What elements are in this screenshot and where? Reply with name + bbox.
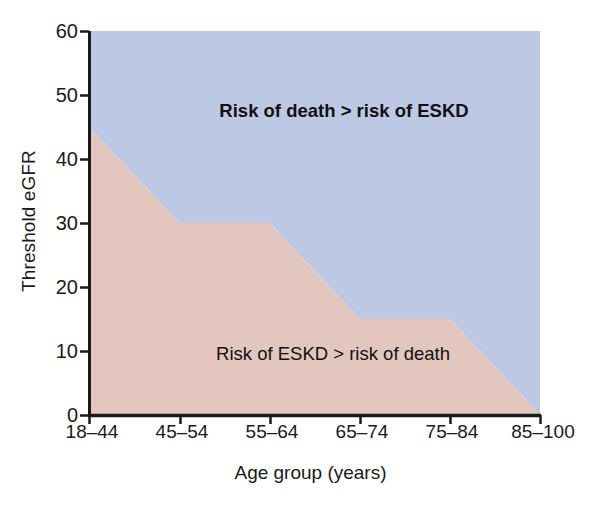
x-tick-label-75-84: 75–84 bbox=[426, 421, 479, 443]
risk-of-eskd-label: Risk of ESKD > risk of death bbox=[216, 343, 450, 365]
x-tick-label-85-100: 85–100 bbox=[511, 421, 574, 443]
x-tick-label-45-54: 45–54 bbox=[156, 421, 209, 443]
chart-figure: Threshold eGFR 60 50 40 30 20 10 0 bbox=[0, 0, 591, 507]
y-axis-ticks bbox=[80, 32, 89, 416]
x-tick-label-18-44: 18–44 bbox=[66, 421, 119, 443]
x-tick-label-65-74: 65–74 bbox=[336, 421, 389, 443]
x-axis-tick-labels: 18–44 45–54 55–64 65–74 75–84 85–100 bbox=[0, 421, 591, 451]
x-tick-label-55-64: 55–64 bbox=[246, 421, 299, 443]
x-axis-title-text: Age group (years) bbox=[204, 462, 386, 484]
risk-of-death-label: Risk of death > risk of ESKD bbox=[219, 100, 468, 122]
x-axis-title: Age group (years) bbox=[0, 462, 591, 484]
